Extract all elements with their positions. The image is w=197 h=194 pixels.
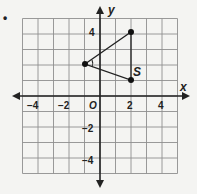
x-tick-label: −2: [58, 100, 70, 111]
x-axis-label: x: [179, 80, 188, 94]
x-tick-label: 2: [127, 100, 133, 111]
y-axis-label: y: [107, 3, 116, 17]
x-axis-left-arrow-icon: [12, 92, 20, 100]
bullet-marker: •: [3, 11, 7, 25]
x-tick-label: −4: [27, 100, 39, 111]
y-axis-down-arrow-icon: [96, 180, 104, 188]
origin-label: O: [89, 100, 97, 111]
triangle: [85, 32, 131, 80]
vertex-point: [128, 29, 134, 35]
y-tick-label: −4: [82, 155, 94, 166]
y-axis-up-arrow-icon: [96, 6, 104, 14]
x-tick-label: 4: [158, 100, 164, 111]
coordinate-plane: • y x O −4 −2 2 4 4 −2 −4 S: [0, 0, 197, 194]
y-tick-label: 4: [89, 27, 95, 38]
vertex-label-s: S: [133, 65, 141, 79]
angle-marker-icon: [92, 60, 93, 67]
vertex-point: [82, 61, 88, 67]
y-tick-label: −2: [82, 123, 94, 134]
